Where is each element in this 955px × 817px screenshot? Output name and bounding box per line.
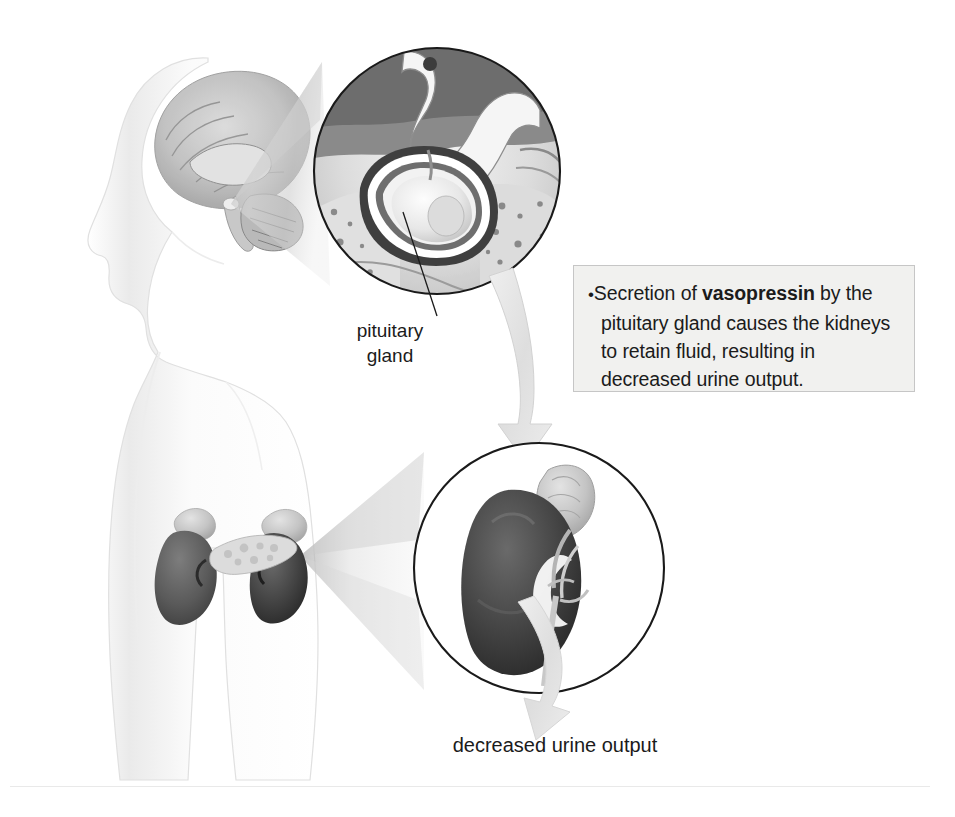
label-pituitary-gland: pituitary gland — [340, 318, 440, 368]
figure-canvas: •Secretion of vasopressin by the pituita… — [0, 0, 955, 817]
anatomy-illustration — [0, 0, 955, 817]
pituitary-gland-inset — [314, 48, 560, 296]
callout-text-box: •Secretion of vasopressin by the pituita… — [573, 265, 915, 392]
human-body-silhouette — [88, 58, 318, 780]
callout-line1-b: by the — [815, 282, 873, 304]
callout-line2: pituitary gland causes the kidneys — [601, 312, 890, 334]
callout-line4: decreased urine output. — [601, 368, 804, 390]
flow-arrow-kidney-to-output — [518, 596, 570, 740]
flow-arrow-pituitary-to-kidney — [489, 268, 552, 462]
kidneys-and-adrenal-glands — [155, 509, 308, 625]
magnification-cone-kidney — [300, 452, 424, 690]
callout-line3: to retain fluid, resulting in — [601, 340, 815, 362]
brain-sagittal-section — [155, 71, 310, 251]
callout-emphasis-vasopressin: vasopressin — [702, 282, 815, 304]
kidney-inset — [414, 443, 664, 693]
callout-paragraph: •Secretion of vasopressin by the pituita… — [588, 279, 900, 393]
leader-line-pituitary-gland — [403, 212, 437, 316]
magnification-cone-head — [231, 62, 330, 286]
label-decreased-urine-output: decreased urine output — [405, 733, 705, 758]
footer-divider — [10, 786, 930, 787]
callout-line1-a: Secretion of — [594, 282, 702, 304]
